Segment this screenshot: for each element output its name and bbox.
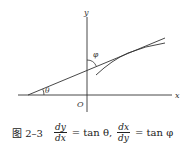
curve — [96, 43, 165, 75]
theta-label: θ — [45, 86, 50, 95]
figure-number: 图 2–3 — [12, 125, 43, 140]
fraction-dy-dx: dy dx — [54, 122, 67, 143]
fraction-dx-dy: dx dy — [117, 122, 130, 143]
theta-arc — [43, 89, 44, 95]
fraction-denominator: dy — [118, 133, 129, 143]
fraction-denominator: dx — [55, 133, 66, 143]
equation-rhs-1: = tan θ, — [72, 127, 112, 138]
figure-caption: 图 2–3 dy dx = tan θ, dx dy = tan φ — [12, 118, 192, 146]
y-axis-label: y — [83, 8, 89, 17]
phi-arc — [87, 60, 96, 66]
x-axis-label: x — [175, 91, 180, 100]
equation-rhs-2: = tan φ — [135, 127, 173, 138]
origin-label: O — [77, 100, 84, 109]
fraction-numerator: dy — [54, 122, 67, 133]
phi-label: φ — [93, 50, 99, 59]
fraction-numerator: dx — [117, 122, 130, 133]
